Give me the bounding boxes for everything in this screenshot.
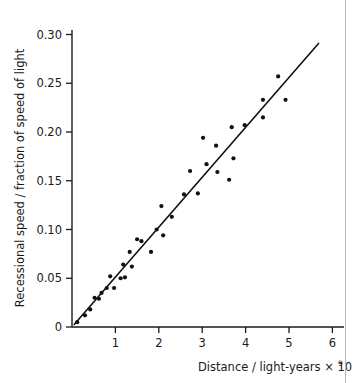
y-tick-label: 0.10 (36, 223, 62, 237)
data-point (231, 156, 235, 160)
hubble-scatter-figure: 00.050.100.150.200.250.30 123456 Recessi… (0, 0, 360, 383)
data-point (161, 233, 165, 237)
data-point (99, 291, 103, 295)
data-point-group (75, 74, 288, 324)
data-point (112, 286, 116, 290)
data-point (230, 125, 234, 129)
data-point (88, 307, 92, 311)
x-axis-tick-labels: 123456 (112, 336, 336, 350)
data-point (128, 250, 132, 254)
data-point (121, 263, 125, 267)
data-point (123, 275, 127, 279)
x-tick-label: 6 (329, 336, 336, 350)
data-point (276, 74, 280, 78)
x-tick-label: 1 (112, 336, 119, 350)
scatter-plot-canvas: 00.050.100.150.200.250.30 123456 Recessi… (0, 0, 360, 383)
data-point (215, 170, 219, 174)
x-tick-label: 3 (199, 336, 206, 350)
x-axis-title-text: Distance / light-years × 10 (198, 360, 352, 374)
data-point (261, 115, 265, 119)
data-point (139, 239, 143, 243)
y-tick-label: 0.05 (36, 271, 62, 285)
data-point (83, 313, 87, 317)
page-edge-rule (345, 0, 346, 383)
data-point (149, 250, 153, 254)
data-point (196, 191, 200, 195)
x-tick-label: 5 (285, 336, 292, 350)
y-tick-label: 0 (55, 320, 62, 334)
x-tick-label: 2 (155, 336, 162, 350)
x-axis-title-exponent: 9 (338, 359, 343, 368)
y-tick-label: 0.30 (36, 28, 62, 42)
data-point (130, 264, 134, 268)
y-tick-label: 0.20 (36, 125, 62, 139)
x-axis-title: Distance / light-years × 10 9 (198, 359, 352, 374)
data-point (75, 320, 79, 324)
data-point (119, 276, 123, 280)
data-point (97, 297, 101, 301)
data-point (261, 98, 265, 102)
data-point (243, 123, 247, 127)
data-point (159, 204, 163, 208)
data-point (188, 169, 192, 173)
data-point (92, 296, 96, 300)
data-point (214, 144, 218, 148)
y-tick-label: 0.25 (36, 76, 62, 90)
data-point (204, 162, 208, 166)
data-point (227, 178, 231, 182)
x-axis-ticks (115, 327, 332, 333)
data-point (135, 237, 139, 241)
y-axis-title: Recessional speed / fraction of speed of… (13, 48, 27, 307)
y-tick-label: 0.15 (36, 174, 62, 188)
data-point (108, 274, 112, 278)
best-fit-line (74, 43, 318, 324)
x-tick-label: 4 (242, 336, 249, 350)
data-point (201, 136, 205, 140)
data-point (170, 215, 174, 219)
axis-lines (72, 30, 344, 327)
data-point (283, 98, 287, 102)
data-point (105, 286, 109, 290)
y-axis-ticks (66, 35, 72, 328)
data-point (155, 227, 159, 231)
data-point (182, 192, 186, 196)
y-axis-tick-labels: 00.050.100.150.200.250.30 (36, 28, 62, 335)
